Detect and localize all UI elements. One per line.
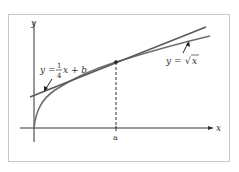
- fraction-numerator: 1: [57, 62, 61, 70]
- radicand: x: [192, 56, 197, 66]
- x-axis-label: x: [216, 123, 221, 133]
- sqrt-label-prefix: y =: [165, 56, 182, 66]
- tangent-label-suffix: x + b: [63, 65, 87, 75]
- tangent-line-diagram: y x a y = 1 4 x + b y = √ x: [0, 0, 239, 172]
- tangent-point: [114, 60, 118, 64]
- tangent-label-prefix: y =: [39, 65, 56, 75]
- figure-frame: [9, 15, 230, 162]
- y-axis-label: y: [30, 18, 37, 28]
- fraction-denominator: 4: [57, 72, 62, 80]
- radical-sign: √: [185, 56, 191, 66]
- point-a-label: a: [113, 133, 118, 142]
